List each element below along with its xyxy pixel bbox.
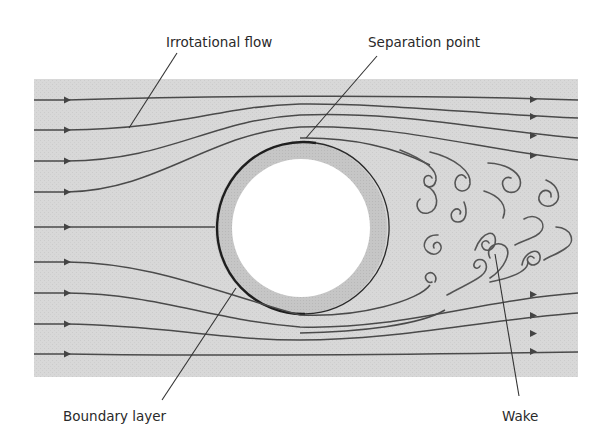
label-wake: Wake — [502, 408, 538, 424]
label-boundary-layer: Boundary layer — [63, 408, 167, 424]
cylinder-body — [232, 159, 370, 297]
flow-diagram: Irrotational flow Separation point Bound… — [0, 0, 601, 446]
label-irrotational-flow: Irrotational flow — [166, 34, 272, 50]
label-separation-point: Separation point — [368, 34, 480, 50]
